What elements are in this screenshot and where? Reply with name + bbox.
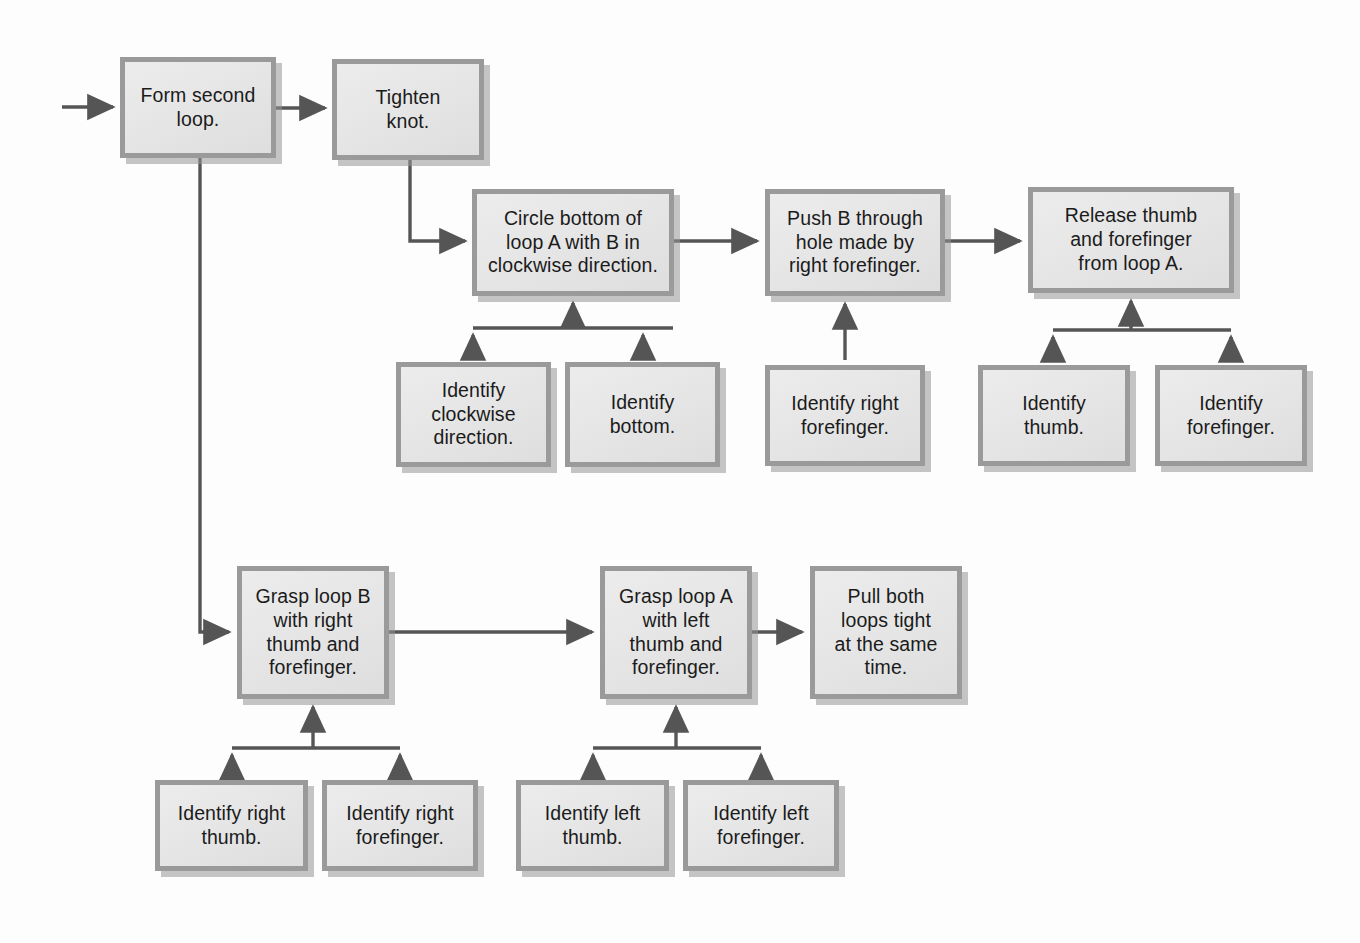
node-label: Grasp loop B with right thumb and forefi…	[255, 585, 370, 680]
node-identify-bottom[interactable]: Identify bottom.	[565, 362, 720, 467]
node-label: Identify clockwise direction.	[431, 379, 515, 450]
node-label: Identify bottom.	[610, 391, 676, 439]
node-label: Release thumb and forefinger from loop A…	[1065, 204, 1197, 275]
node-label: Push B through hole made by right forefi…	[787, 207, 923, 278]
connector-form-to-grasp-b	[200, 158, 229, 632]
node-identify-clockwise-direction[interactable]: Identify clockwise direction.	[396, 362, 551, 467]
node-identify-thumb[interactable]: Identify thumb.	[978, 365, 1130, 466]
node-identify-left-thumb[interactable]: Identify left thumb.	[516, 780, 669, 871]
node-identify-left-forefinger[interactable]: Identify left forefinger.	[683, 780, 839, 871]
node-form-second-loop[interactable]: Form second loop.	[120, 57, 276, 158]
node-push-b-through-hole[interactable]: Push B through hole made by right forefi…	[765, 189, 945, 296]
flowchart-canvas: Form second loop.Tighten knot.Circle bot…	[0, 0, 1360, 943]
node-identify-right-thumb[interactable]: Identify right thumb.	[155, 780, 308, 871]
node-grasp-loop-a[interactable]: Grasp loop A with left thumb and forefin…	[600, 566, 752, 699]
node-identify-right-forefinger[interactable]: Identify right forefinger.	[322, 780, 478, 871]
node-label: Tighten knot.	[375, 86, 440, 134]
node-label: Pull both loops tight at the same time.	[835, 585, 938, 680]
node-label: Identify left thumb.	[545, 802, 641, 850]
node-identify-right-forefinger-push[interactable]: Identify right forefinger.	[765, 365, 925, 466]
node-label: Identify left forefinger.	[713, 802, 809, 850]
node-identify-forefinger[interactable]: Identify forefinger.	[1155, 365, 1307, 466]
node-tighten-knot[interactable]: Tighten knot.	[332, 59, 484, 160]
node-label: Identify right forefinger.	[346, 802, 454, 850]
node-label: Grasp loop A with left thumb and forefin…	[619, 585, 733, 680]
connector-tighten-to-circle	[410, 160, 465, 241]
node-circle-bottom-loop-a[interactable]: Circle bottom of loop A with B in clockw…	[472, 189, 674, 296]
node-label: Circle bottom of loop A with B in clockw…	[488, 207, 658, 278]
node-label: Identify right thumb.	[178, 802, 286, 850]
node-label: Identify right forefinger.	[791, 392, 899, 440]
node-pull-both-loops-tight[interactable]: Pull both loops tight at the same time.	[810, 566, 962, 699]
node-release-thumb-forefinger[interactable]: Release thumb and forefinger from loop A…	[1028, 187, 1234, 293]
node-label: Form second loop.	[141, 84, 256, 132]
node-grasp-loop-b[interactable]: Grasp loop B with right thumb and forefi…	[237, 566, 389, 699]
node-label: Identify thumb.	[1022, 392, 1086, 440]
node-label: Identify forefinger.	[1187, 392, 1275, 440]
